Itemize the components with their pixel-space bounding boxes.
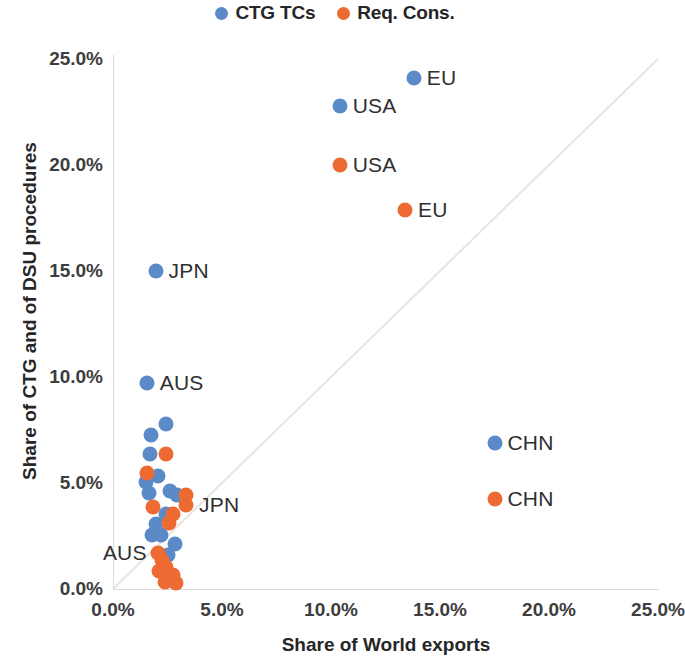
y-axis-title: Share of CTG and of DSU procedures xyxy=(19,76,41,546)
data-point-label: AUS xyxy=(160,371,204,395)
reference-line-svg xyxy=(113,59,658,589)
data-point-label: JPN xyxy=(199,493,239,517)
x-tick-label: 5.0% xyxy=(200,599,243,621)
data-point-req-cons[interactable] xyxy=(332,158,347,173)
data-point-ctg-tcs[interactable] xyxy=(159,416,174,431)
y-tick-label: 10.0% xyxy=(49,366,103,388)
y-tick-label: 25.0% xyxy=(49,48,103,70)
data-point-ctg-tcs[interactable] xyxy=(148,264,163,279)
legend-label-ctg-tcs: CTG TCs xyxy=(235,2,315,24)
data-point-label: AUS xyxy=(103,541,147,565)
data-point-req-cons[interactable] xyxy=(179,487,194,502)
data-point-label: EU xyxy=(427,66,457,90)
data-point-label: JPN xyxy=(169,259,209,283)
data-point-ctg-tcs[interactable] xyxy=(162,484,177,499)
y-tick-label: 0.0% xyxy=(60,578,103,600)
y-tick-label: 5.0% xyxy=(60,472,103,494)
legend-entry-ctg-tcs[interactable]: CTG TCs xyxy=(215,2,315,24)
legend-entry-req-cons[interactable]: Req. Cons. xyxy=(337,2,454,24)
data-point-ctg-tcs[interactable] xyxy=(139,376,154,391)
x-tick-label: 25.0% xyxy=(631,599,685,621)
data-point-ctg-tcs[interactable] xyxy=(141,485,156,500)
data-point-label: USA xyxy=(353,153,397,177)
x-axis-line xyxy=(113,589,659,590)
legend-label-req-cons: Req. Cons. xyxy=(357,2,454,24)
data-point-req-cons[interactable] xyxy=(139,466,154,481)
data-point-label: CHN xyxy=(508,487,554,511)
data-point-req-cons[interactable] xyxy=(487,491,502,506)
data-point-ctg-tcs[interactable] xyxy=(143,447,158,462)
data-point-req-cons[interactable] xyxy=(146,500,161,515)
data-point-label: EU xyxy=(418,198,448,222)
x-tick-label: 0.0% xyxy=(91,599,134,621)
data-point-req-cons[interactable] xyxy=(159,447,174,462)
x-tick-label: 15.0% xyxy=(413,599,467,621)
data-point-ctg-tcs[interactable] xyxy=(332,98,347,113)
parity-reference-line xyxy=(113,59,658,589)
x-tick-label: 20.0% xyxy=(522,599,576,621)
y-tick-label: 15.0% xyxy=(49,260,103,282)
data-point-ctg-tcs[interactable] xyxy=(144,428,159,443)
y-axis-ticks: 0.0%5.0%10.0%15.0%20.0%25.0% xyxy=(0,0,103,667)
data-point-ctg-tcs[interactable] xyxy=(406,71,421,86)
data-point-req-cons[interactable] xyxy=(161,516,176,531)
data-point-ctg-tcs[interactable] xyxy=(487,435,502,450)
data-point-req-cons[interactable] xyxy=(398,202,413,217)
data-point-label: USA xyxy=(353,94,397,118)
y-tick-label: 20.0% xyxy=(49,154,103,176)
legend-swatch-icon-ctg-tcs xyxy=(215,7,228,20)
data-point-req-cons[interactable] xyxy=(169,575,184,590)
x-tick-label: 10.0% xyxy=(304,599,358,621)
data-point-label: CHN xyxy=(508,431,554,455)
legend-swatch-icon-req-cons xyxy=(337,7,350,20)
plot-area: EUUSAJPNAUSCHNUSAEUCHNJPNAUS xyxy=(113,59,658,589)
x-axis-title: Share of World exports xyxy=(113,634,659,656)
